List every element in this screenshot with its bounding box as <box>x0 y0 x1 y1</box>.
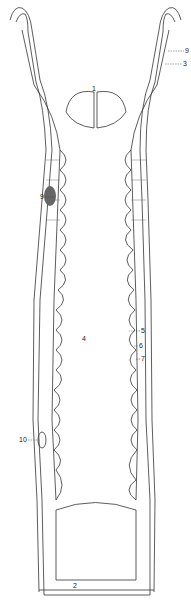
label-1: 1 <box>92 85 96 92</box>
label-3: 3 <box>183 60 187 67</box>
label-5: 5 <box>141 327 145 334</box>
outer-wall-left <box>10 8 52 596</box>
nodule-9-left <box>44 186 56 206</box>
label-6: 6 <box>139 342 143 349</box>
label-7: 7 <box>141 355 145 362</box>
label-10: 10 <box>19 436 27 443</box>
outer-wall-right <box>140 8 181 596</box>
label-9-top: 9 <box>185 47 189 54</box>
label-2: 2 <box>73 582 77 589</box>
label-9-left: 9 <box>40 193 44 200</box>
label-4: 4 <box>82 335 86 342</box>
